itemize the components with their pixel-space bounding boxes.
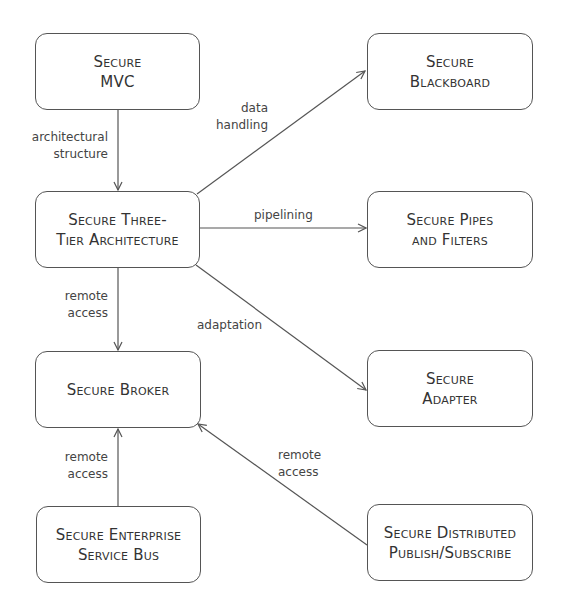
edge-label-architectural-structure: architectural structure xyxy=(20,129,108,163)
node-label: Secure xyxy=(426,369,474,389)
node-label: Secure xyxy=(94,52,142,72)
node-label: Blackboard xyxy=(410,72,490,92)
node-label: Secure Distributed xyxy=(384,523,516,543)
edge-label-text: remote xyxy=(40,288,108,305)
edge-label-text: access xyxy=(278,464,321,481)
node-secure-adapter: Secure Adapter xyxy=(367,350,533,427)
node-label: Secure Enterprise xyxy=(56,525,181,545)
edge-label-text: structure xyxy=(20,146,108,163)
edge-label-remote-access-2: remote access xyxy=(40,449,108,483)
edge-label-pipelining: pipelining xyxy=(254,207,313,224)
edge-label-adaptation: adaptation xyxy=(197,317,262,334)
edge-label-text: pipelining xyxy=(254,207,313,224)
edge-label-text: remote xyxy=(40,449,108,466)
edge-label-text: architectural xyxy=(20,129,108,146)
edge-label-text: data xyxy=(200,100,268,117)
node-label: Adapter xyxy=(422,389,477,409)
node-secure-distributed-publish-subscribe: Secure Distributed Publish/Subscribe xyxy=(367,504,533,581)
node-label: MVC xyxy=(100,72,134,92)
node-secure-enterprise-service-bus: Secure Enterprise Service Bus xyxy=(36,506,201,583)
node-label: Publish/Subscribe xyxy=(389,543,512,563)
node-label: Secure xyxy=(426,52,474,72)
edge-label-text: remote xyxy=(278,447,321,464)
edge-label-text: access xyxy=(40,466,108,483)
node-label: Secure Pipes xyxy=(407,210,494,230)
edge-dps-broker xyxy=(198,424,367,545)
edge-label-data-handling: data handling xyxy=(200,100,268,134)
edge-label-remote-access-1: remote access xyxy=(40,288,108,322)
node-secure-broker: Secure Broker xyxy=(35,351,201,428)
edge-label-text: access xyxy=(40,305,108,322)
node-label: Service Bus xyxy=(78,545,159,565)
node-secure-three-tier-architecture: Secure Three- Tier Architecture xyxy=(35,191,200,268)
node-label: Secure Three- xyxy=(68,210,167,230)
node-secure-pipes-and-filters: Secure Pipes and Filters xyxy=(367,191,533,268)
node-label: and Filters xyxy=(412,230,488,250)
edge-label-text: handling xyxy=(200,117,268,134)
node-label: Tier Architecture xyxy=(56,230,178,250)
node-label: Secure Broker xyxy=(67,380,170,400)
node-secure-mvc: Secure MVC xyxy=(35,33,200,110)
edge-label-remote-access-3: remote access xyxy=(278,447,321,481)
edge-label-text: adaptation xyxy=(197,317,262,334)
node-secure-blackboard: Secure Blackboard xyxy=(367,33,533,110)
